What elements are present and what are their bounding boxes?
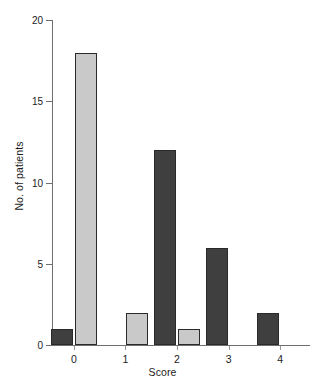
x-tick-label: 2 — [174, 353, 180, 365]
y-axis-label: No. of patients — [13, 116, 25, 236]
x-tick-mark — [125, 346, 126, 350]
x-axis-label: Score — [0, 366, 325, 378]
x-tick-mark — [177, 346, 178, 350]
y-tick-label: 5 — [37, 258, 43, 269]
y-tick-mark — [46, 345, 52, 346]
bar-chart: No. of patients Score 05101520 01234 — [0, 0, 325, 385]
y-tick-label: 0 — [37, 340, 43, 351]
x-tick-mark — [229, 346, 230, 350]
bar — [206, 248, 228, 346]
bar — [126, 313, 148, 346]
x-tick-label: 4 — [277, 353, 283, 365]
bar — [154, 150, 176, 345]
y-tick-label: 10 — [32, 177, 43, 188]
x-tick-label: 3 — [226, 353, 232, 365]
bar — [75, 53, 97, 346]
y-tick-label: 20 — [32, 15, 43, 26]
x-tick-label: 0 — [71, 353, 77, 365]
y-tick-label: 15 — [32, 96, 43, 107]
bars-layer — [52, 20, 310, 345]
bar — [257, 313, 279, 346]
bar — [51, 329, 73, 345]
x-tick-mark — [280, 346, 281, 350]
x-axis-line — [52, 345, 310, 346]
bar — [178, 329, 200, 345]
x-tick-mark — [74, 346, 75, 350]
x-tick-label: 1 — [122, 353, 128, 365]
